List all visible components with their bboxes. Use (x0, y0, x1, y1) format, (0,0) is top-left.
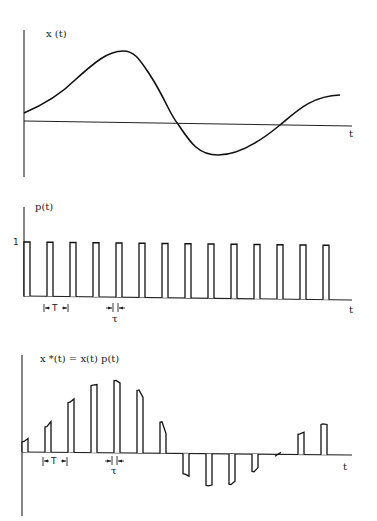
pulse (24, 242, 30, 296)
pulse (208, 244, 214, 298)
period-label: T (50, 456, 57, 466)
pulse (47, 242, 53, 296)
pulse (323, 245, 329, 299)
sample-pulse (91, 385, 97, 453)
pulse (300, 245, 306, 299)
sample-pulse (22, 439, 28, 452)
signal-curve (24, 51, 340, 155)
pulse (116, 243, 122, 297)
sample-pulse (252, 454, 258, 472)
x-of-t-label: x (t) (46, 28, 67, 39)
pulse (139, 243, 145, 297)
sample-pulse (114, 380, 120, 453)
t-label: t (343, 461, 347, 472)
pulse-group (24, 242, 329, 300)
t-label: t (349, 304, 353, 315)
sample-pulse (206, 454, 212, 486)
sample-group (22, 380, 327, 486)
period-dimension: T (43, 456, 67, 466)
sampled-signal-label: x *(t) = x(t) p(t) (40, 353, 119, 364)
pulse-width-label: τ (112, 313, 118, 324)
pulse (277, 245, 283, 299)
sample-pulse (321, 424, 327, 455)
pulse (231, 244, 237, 298)
sampling-diagram: x (t) t p(t) 1 t T τ (0, 0, 377, 521)
sample-pulse (137, 390, 143, 453)
pulse (185, 244, 191, 298)
period-label: T (51, 303, 58, 313)
sample-pulse (68, 399, 74, 452)
pulse-width-label: τ (111, 465, 117, 476)
t-axis (24, 121, 352, 126)
amplitude-one-label: 1 (13, 237, 19, 247)
pulse-width-dimension: τ (105, 456, 124, 476)
t-label: t (349, 128, 353, 139)
sample-pulse (45, 422, 51, 453)
pulse (70, 243, 76, 297)
sample-pulse (298, 432, 304, 454)
sample-pulse (160, 422, 166, 453)
panel-continuous-signal: x (t) t (24, 28, 353, 177)
pulse-width-dimension: τ (106, 303, 125, 324)
pulse (93, 243, 99, 297)
pulse (162, 244, 168, 298)
pulse (254, 245, 260, 299)
sample-pulse (229, 454, 235, 485)
period-dimension: T (44, 303, 68, 313)
panel-sampled-signal: x *(t) = x(t) p(t) t T τ (22, 353, 352, 516)
sample-pulse (183, 453, 189, 476)
panel-pulse-train: p(t) 1 t T τ (13, 201, 353, 324)
p-of-t-label: p(t) (35, 201, 53, 212)
